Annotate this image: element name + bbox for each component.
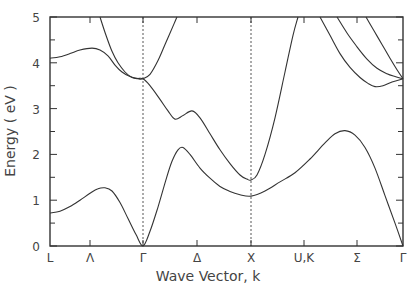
y-tick-label: 5 [32,11,40,25]
x-tick-label: Λ [86,251,95,265]
x-tick-label: Γ [400,251,407,265]
y-tick-label: 1 [32,194,40,208]
band-curve-6 [366,17,403,79]
y-axis-ticks: 012345 [32,11,403,254]
y-axis-title: Energy ( eV ) [2,85,18,176]
y-tick-label: 4 [32,57,40,71]
symmetry-dotted-lines [143,17,251,246]
y-tick-label: 2 [32,148,40,162]
x-tick-label: X [247,251,255,265]
band-structure-chart: 012345 LΛΓΔXU,KΣΓ Wave Vector, k Energy … [0,0,415,290]
x-tick-label: U,K [294,251,316,265]
band-curve-5 [337,17,403,79]
x-axis-ticks: LΛΓΔXU,KΣΓ [47,17,407,265]
x-tick-label: Δ [193,251,202,265]
band-curves [50,17,403,246]
band-curve-3 [100,17,177,79]
band-curve-1 [50,131,403,246]
x-tick-label: Σ [353,251,361,265]
x-axis-title: Wave Vector, k [156,268,261,284]
x-tick-label: Γ [140,251,147,265]
x-tick-label: L [47,251,54,265]
y-tick-label: 3 [32,103,40,117]
y-tick-label: 0 [32,240,40,254]
